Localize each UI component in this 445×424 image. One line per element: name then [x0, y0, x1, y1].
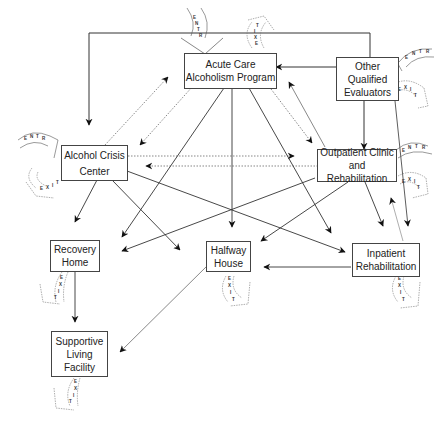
edge-crisis-to-recovery: [75, 180, 97, 222]
svg-text:E: E: [255, 41, 258, 46]
edge-acute-to-recovery: [122, 88, 224, 237]
svg-text:N: N: [30, 134, 33, 139]
edge-outpatient-to-halfway: [261, 182, 348, 241]
svg-text:T: T: [197, 27, 200, 32]
edge-acute-to-crisis: [140, 86, 193, 145]
svg-text:E: E: [402, 179, 405, 184]
node-label-line: Alcoholism Program: [186, 71, 275, 84]
node-label-line: Inpatient: [356, 247, 417, 260]
entry-label: E: [193, 15, 196, 20]
svg-text:R: R: [426, 49, 430, 54]
edge-outpatient-to-inpatient: [365, 182, 383, 226]
svg-text:I: I: [73, 393, 74, 398]
svg-text:T: T: [54, 295, 57, 300]
node-label-line: Rehabilitation: [356, 260, 417, 273]
svg-text:X: X: [59, 282, 62, 287]
node-halfway-house: Halfway House: [206, 241, 251, 272]
svg-text:N: N: [412, 51, 415, 56]
node-inpatient-rehabilitation: Inpatient Rehabilitation: [352, 243, 420, 277]
svg-text:E: E: [402, 148, 405, 153]
node-outpatient-clinic: Outpatient Clinic and Rehabilitation: [317, 149, 397, 182]
node-label-line: Evaluators: [344, 86, 391, 99]
edge-acute-to-outpatient: [271, 89, 312, 143]
exit-badge-halfway: E X I T: [222, 276, 250, 306]
svg-text:I: I: [52, 183, 53, 188]
svg-text:X: X: [398, 283, 401, 288]
svg-text:X: X: [408, 177, 411, 182]
svg-text:N: N: [408, 145, 411, 150]
node-supportive-living-facility: Supportive Living Facility: [51, 331, 108, 377]
exit-badge-inpatient: E X I T: [392, 276, 420, 308]
svg-text:T: T: [402, 297, 405, 302]
node-label-line: House: [211, 257, 247, 270]
svg-text:X: X: [74, 386, 77, 391]
node-label-line: and Rehabilitation: [318, 159, 396, 185]
svg-text:X: X: [46, 185, 49, 190]
edge-crisis-to-inpatient: [127, 171, 345, 252]
node-label-line: Other: [344, 60, 391, 73]
node-label-line: Qualified: [344, 73, 391, 86]
svg-text:E: E: [74, 379, 77, 384]
node-label-line: Outpatient Clinic: [318, 146, 396, 159]
svg-text:X: X: [254, 35, 257, 40]
exit-badge-recovery: E X I T: [40, 272, 68, 304]
exit-badge-other: E X I T: [394, 81, 428, 108]
svg-text:I: I: [414, 179, 415, 184]
edge-crisis-to-halfway: [112, 180, 180, 250]
svg-text:I: I: [410, 87, 411, 92]
node-label-line: Home: [54, 256, 96, 269]
entry-badge-crisis: E N T R: [18, 133, 58, 158]
svg-text:T: T: [415, 144, 418, 149]
svg-text:R: R: [422, 145, 426, 150]
svg-text:X: X: [228, 283, 231, 288]
node-label-line: Acute Care: [186, 58, 275, 71]
svg-text:I: I: [230, 290, 231, 295]
edge-crisis-to-acute: [105, 77, 168, 145]
svg-text:E: E: [405, 55, 408, 60]
svg-text:T: T: [414, 93, 417, 98]
entry-badge-outpatient: E N T R: [396, 143, 432, 158]
edge-halfway-to-supportive: [120, 265, 208, 352]
svg-text:R: R: [199, 33, 203, 38]
edge-outpatient-to-acute: [289, 82, 325, 147]
exit-badge-crisis: E X I T: [26, 168, 59, 198]
svg-text:I: I: [254, 29, 255, 34]
svg-text:X: X: [404, 85, 407, 90]
node-label-line: Center: [64, 165, 125, 178]
exit-badge-supportive: E X I T: [54, 378, 80, 410]
node-other-evaluators: Other Qualified Evaluators: [336, 57, 399, 101]
node-acute-care: Acute Care Alcoholism Program: [184, 53, 277, 89]
svg-text:N: N: [195, 21, 198, 26]
node-alcohol-crisis-center: Alcohol Crisis Center: [61, 145, 128, 181]
node-label-line: Alcohol Crisis: [64, 149, 125, 162]
edge-inpatient-to-outpatient: [391, 198, 403, 241]
node-label-line: Recovery: [54, 243, 96, 256]
node-recovery-home: Recovery Home: [50, 240, 100, 272]
svg-text:E: E: [60, 275, 63, 280]
exit-badge-acute: T I X E: [247, 16, 274, 48]
node-label-line: Living: [56, 348, 104, 361]
svg-text:T: T: [69, 399, 72, 404]
entry-badge-other: E N T R: [394, 49, 434, 71]
svg-text:E: E: [24, 136, 27, 141]
svg-text:E: E: [228, 276, 231, 281]
entry-badge-acute: E N T R: [181, 8, 223, 54]
node-label-line: Facility: [56, 361, 104, 374]
svg-text:E: E: [40, 186, 43, 191]
svg-text:T: T: [419, 49, 422, 54]
svg-text:I: I: [400, 290, 401, 295]
svg-text:R: R: [42, 136, 46, 141]
svg-text:T: T: [232, 297, 235, 302]
svg-text:I: I: [58, 289, 59, 294]
node-label-line: Halfway: [211, 244, 247, 257]
svg-text:T: T: [36, 134, 39, 139]
svg-text:T: T: [56, 180, 59, 185]
svg-text:T: T: [417, 185, 420, 190]
svg-text:T: T: [256, 23, 259, 28]
node-label-line: Supportive: [56, 335, 104, 348]
